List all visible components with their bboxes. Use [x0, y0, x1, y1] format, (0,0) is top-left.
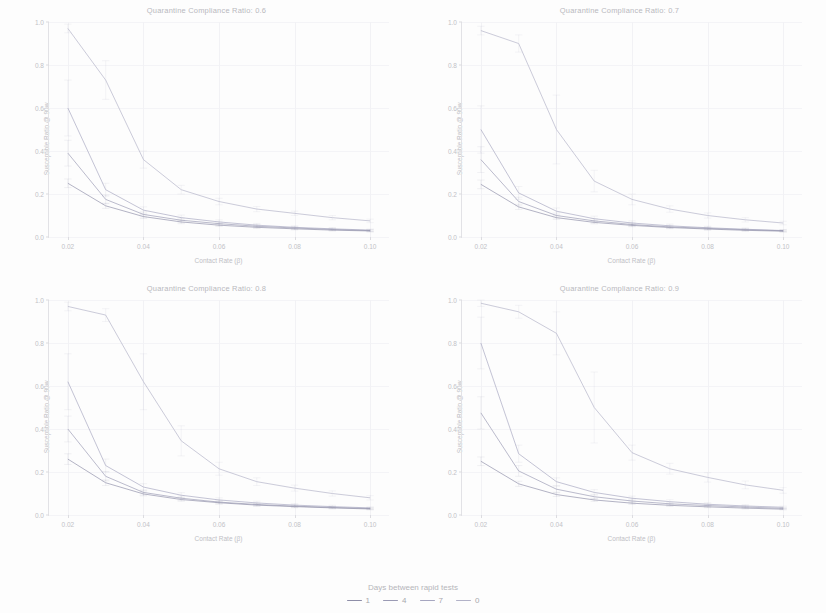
plot-area-wrap: 0.00.20.40.60.81.00.020.040.060.080.10	[48, 22, 389, 238]
facet-panel-3: Quarantine Compliance Ratio: 0.9 Suscept…	[413, 278, 826, 556]
y-tick-label: 0.0	[35, 512, 44, 519]
x-tick-label: 0.04	[550, 521, 563, 528]
series-1[interactable]	[64, 454, 373, 510]
plot-area-wrap: 0.00.20.40.60.81.00.020.040.060.080.10	[461, 300, 802, 516]
x-tick-label: 0.06	[626, 521, 639, 528]
series-7[interactable]	[64, 354, 373, 509]
legend-items: 1470	[0, 596, 826, 605]
y-tick-label: 0.4	[448, 148, 457, 155]
x-tick-label: 0.10	[364, 521, 377, 528]
x-tick-label: 0.10	[777, 521, 790, 528]
x-tick-label: 0.10	[364, 243, 377, 250]
x-tick-mark	[143, 237, 144, 240]
legend-label: 4	[402, 596, 406, 605]
series-line	[481, 413, 783, 508]
x-tick-mark	[481, 515, 482, 518]
x-tick-mark	[632, 237, 633, 240]
x-tick-label: 0.04	[137, 243, 150, 250]
legend-label: 1	[366, 596, 370, 605]
legend-swatch-icon	[347, 600, 362, 602]
x-tick-mark	[295, 237, 296, 240]
legend-item-4[interactable]: 4	[383, 596, 406, 605]
y-tick-label: 0.6	[35, 105, 44, 112]
legend-item-1[interactable]: 1	[347, 596, 370, 605]
x-tick-label: 0.02	[475, 243, 488, 250]
x-tick-label: 0.02	[62, 521, 75, 528]
y-tick-label: 0.0	[448, 512, 457, 519]
x-axis-label: Contact Rate (β)	[461, 257, 802, 264]
series-1[interactable]	[477, 457, 786, 510]
series-line	[68, 28, 370, 220]
y-tick-label: 0.8	[448, 62, 457, 69]
y-tick-label: 0.4	[35, 148, 44, 155]
x-tick-label: 0.08	[288, 521, 301, 528]
legend-swatch-icon	[383, 600, 398, 602]
x-axis-label: Contact Rate (β)	[48, 257, 389, 264]
facet-title: Quarantine Compliance Ratio: 0.7	[413, 6, 826, 15]
facet-grid: Quarantine Compliance Ratio: 0.6 Suscept…	[0, 0, 826, 556]
legend: Days between rapid tests 1470	[0, 583, 826, 605]
x-tick-mark	[708, 237, 709, 240]
plot-area-wrap: 0.00.20.40.60.81.00.020.040.060.080.10	[461, 22, 802, 238]
x-tick-mark	[295, 515, 296, 518]
series-7[interactable]	[477, 106, 786, 232]
y-tick-label: 0.4	[35, 426, 44, 433]
series-4[interactable]	[64, 140, 373, 231]
series-0[interactable]	[477, 300, 786, 493]
y-tick-label: 0.2	[448, 191, 457, 198]
series-line	[68, 108, 370, 230]
x-axis-label: Contact Rate (β)	[461, 535, 802, 542]
y-tick-label: 0.6	[448, 105, 457, 112]
facet-title: Quarantine Compliance Ratio: 0.6	[0, 6, 413, 15]
facet-panel-0: Quarantine Compliance Ratio: 0.6 Suscept…	[0, 0, 413, 278]
x-tick-mark	[556, 515, 557, 518]
x-tick-mark	[68, 515, 69, 518]
x-axis-label: Contact Rate (β)	[48, 535, 389, 542]
x-tick-mark	[708, 515, 709, 518]
series-layer	[49, 300, 389, 515]
series-line	[481, 303, 783, 490]
series-layer	[462, 300, 802, 515]
x-tick-mark	[370, 237, 371, 240]
x-tick-mark	[68, 237, 69, 240]
x-tick-label: 0.08	[288, 243, 301, 250]
facet-title: Quarantine Compliance Ratio: 0.8	[0, 284, 413, 293]
x-tick-label: 0.08	[701, 521, 714, 528]
x-tick-mark	[632, 515, 633, 518]
series-1[interactable]	[477, 180, 786, 232]
y-tick-label: 0.6	[35, 383, 44, 390]
legend-label: 7	[439, 596, 443, 605]
y-tick-label: 0.8	[35, 340, 44, 347]
series-line	[68, 153, 370, 230]
x-tick-mark	[219, 515, 220, 518]
y-tick-label: 0.6	[448, 383, 457, 390]
legend-item-7[interactable]: 7	[420, 596, 443, 605]
y-tick-label: 1.0	[448, 19, 457, 26]
series-0[interactable]	[64, 302, 373, 500]
y-tick-label: 0.2	[35, 469, 44, 476]
x-tick-mark	[370, 515, 371, 518]
x-tick-label: 0.06	[213, 243, 226, 250]
series-7[interactable]	[477, 317, 786, 508]
x-tick-label: 0.06	[213, 521, 226, 528]
series-line	[481, 130, 783, 231]
plot-area-wrap: 0.00.20.40.60.81.00.020.040.060.080.10	[48, 300, 389, 516]
plot-area: 0.00.20.40.60.81.00.020.040.060.080.10	[461, 22, 802, 238]
x-tick-mark	[783, 237, 784, 240]
series-1[interactable]	[64, 179, 373, 232]
series-line	[68, 306, 370, 497]
x-tick-mark	[219, 237, 220, 240]
legend-item-0[interactable]: 0	[456, 596, 479, 605]
legend-swatch-icon	[456, 600, 471, 602]
series-layer	[49, 22, 389, 237]
y-tick-label: 1.0	[448, 297, 457, 304]
y-tick-label: 1.0	[35, 19, 44, 26]
plot-area: 0.00.20.40.60.81.00.020.040.060.080.10	[48, 22, 389, 238]
y-tick-label: 1.0	[35, 297, 44, 304]
series-line	[481, 343, 783, 507]
x-tick-label: 0.08	[701, 243, 714, 250]
legend-title: Days between rapid tests	[0, 583, 826, 592]
series-7[interactable]	[64, 80, 373, 231]
x-tick-label: 0.04	[550, 243, 563, 250]
plot-area: 0.00.20.40.60.81.00.020.040.060.080.10	[48, 300, 389, 516]
